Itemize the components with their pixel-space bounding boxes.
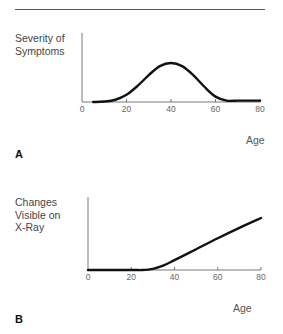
x-tick-label: 80: [255, 104, 265, 114]
charts-canvas: 020406080 020406080: [0, 0, 283, 334]
x-tick-label: 40: [170, 272, 180, 282]
panel-a-axes: 020406080: [80, 33, 265, 114]
x-tick-label: 60: [211, 104, 221, 114]
x-tick-label: 0: [86, 272, 91, 282]
panel-b-axes: 020406080: [86, 197, 266, 282]
x-tick-label: 0: [80, 104, 85, 114]
x-tick-label: 40: [166, 104, 176, 114]
x-tick-label: 80: [256, 272, 266, 282]
panel-a-curve: [93, 63, 260, 102]
panel-b-curve: [88, 218, 261, 270]
x-tick-label: 20: [127, 272, 137, 282]
x-tick-label: 60: [213, 272, 223, 282]
x-tick-label: 20: [122, 104, 132, 114]
